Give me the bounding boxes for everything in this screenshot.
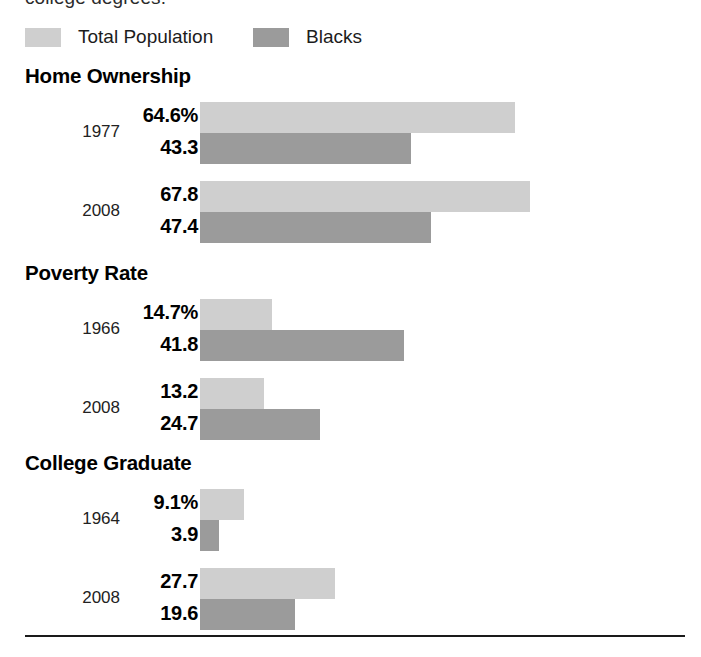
clipped-caption-text: college degrees. — [25, 0, 166, 9]
year-label: 1966 — [52, 319, 120, 339]
year-label: 2008 — [52, 398, 120, 418]
value-label-blacks: 19.6 — [120, 602, 198, 625]
value-label-total: 14.7% — [120, 301, 198, 324]
legend-swatch-total-population — [25, 28, 61, 47]
bar-group-college-graduate-2008: 2008 27.7 19.6 — [0, 568, 701, 630]
bar-group-home-ownership-1977: 1977 64.6% 43.3 — [0, 102, 701, 164]
legend-swatch-blacks — [253, 28, 289, 47]
value-label-total: 64.6% — [120, 104, 198, 127]
section-title-college-graduate: College Graduate — [25, 451, 192, 475]
bar-total-population — [200, 489, 244, 520]
bar-blacks — [200, 520, 219, 551]
value-label-total: 13.2 — [120, 380, 198, 403]
bar-blacks — [200, 212, 431, 243]
legend-item-blacks: Blacks — [253, 26, 362, 48]
bar-blacks — [200, 599, 295, 630]
year-label: 2008 — [52, 588, 120, 608]
section-title-home-ownership: Home Ownership — [25, 64, 191, 88]
bar-blacks — [200, 330, 404, 361]
bar-blacks — [200, 409, 320, 440]
bar-group-college-graduate-1964: 1964 9.1% 3.9 — [0, 489, 701, 551]
value-label-blacks: 3.9 — [120, 523, 198, 546]
value-label-blacks: 47.4 — [120, 215, 198, 238]
bar-group-poverty-rate-1966: 1966 14.7% 41.8 — [0, 299, 701, 361]
legend-item-total-population: Total Population — [25, 26, 213, 48]
chart-figure: college degrees. Total Population Blacks… — [0, 0, 701, 657]
bar-total-population — [200, 102, 515, 133]
legend-label-blacks: Blacks — [306, 26, 362, 48]
bar-blacks — [200, 133, 411, 164]
bar-total-population — [200, 378, 264, 409]
bar-total-population — [200, 299, 272, 330]
value-label-total: 9.1% — [120, 491, 198, 514]
bar-group-poverty-rate-2008: 2008 13.2 24.7 — [0, 378, 701, 440]
value-label-blacks: 43.3 — [120, 136, 198, 159]
value-label-blacks: 41.8 — [120, 333, 198, 356]
legend-label-total-population: Total Population — [78, 26, 213, 48]
value-label-total: 67.8 — [120, 183, 198, 206]
bar-total-population — [200, 568, 335, 599]
year-label: 1977 — [52, 122, 120, 142]
year-label: 1964 — [52, 509, 120, 529]
value-label-total: 27.7 — [120, 570, 198, 593]
bottom-divider-rule — [25, 635, 685, 637]
year-label: 2008 — [52, 201, 120, 221]
value-label-blacks: 24.7 — [120, 412, 198, 435]
section-title-poverty-rate: Poverty Rate — [25, 261, 148, 285]
bar-group-home-ownership-2008: 2008 67.8 47.4 — [0, 181, 701, 243]
bar-total-population — [200, 181, 530, 212]
